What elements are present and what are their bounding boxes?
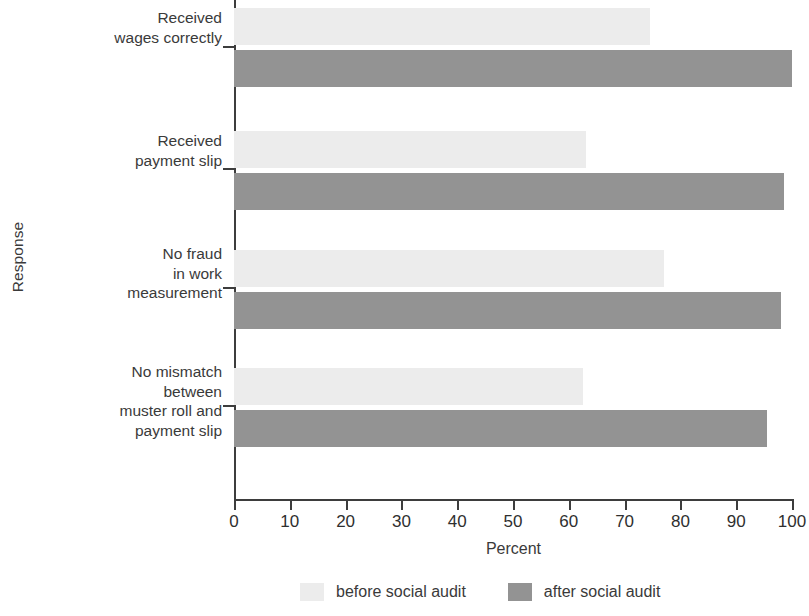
x-tick-5	[513, 499, 515, 510]
legend-item-0: before social audit	[300, 583, 466, 601]
y-tick-2	[223, 287, 234, 289]
legend-swatch-0	[300, 583, 324, 601]
y-tick-3	[223, 405, 234, 407]
x-tick-label-6: 60	[539, 512, 599, 532]
bar-after-2	[234, 292, 781, 329]
x-tick-label-3: 30	[371, 512, 431, 532]
bar-after-1	[234, 173, 784, 210]
bar-after-3	[234, 410, 767, 447]
legend-label-1: after social audit	[544, 583, 661, 601]
x-tick-label-2: 20	[316, 512, 376, 532]
y-tick-0	[223, 46, 234, 48]
bar-before-2	[234, 250, 664, 287]
x-tick-1	[290, 499, 292, 510]
x-tick-label-0: 0	[204, 512, 264, 532]
x-tick-3	[401, 499, 403, 510]
plot-area	[234, 0, 792, 497]
x-tick-6	[569, 499, 571, 510]
legend-item-1: after social audit	[508, 583, 661, 601]
y-tick-label-2: No fraud in work measurement	[127, 244, 222, 303]
y-tick-label-0: Received wages correctly	[114, 8, 222, 47]
x-tick-label-8: 80	[650, 512, 710, 532]
x-tick-label-9: 90	[706, 512, 766, 532]
bar-before-1	[234, 131, 586, 168]
legend-swatch-1	[508, 583, 532, 601]
x-tick-8	[680, 499, 682, 510]
x-tick-0	[234, 499, 236, 510]
bar-before-3	[234, 368, 583, 405]
x-tick-4	[457, 499, 459, 510]
legend-label-0: before social audit	[336, 583, 466, 601]
x-tick-7	[625, 499, 627, 510]
x-tick-label-10: 100	[762, 512, 809, 532]
x-axis-title: Percent	[234, 540, 793, 558]
x-tick-label-4: 40	[427, 512, 487, 532]
x-tick-label-5: 50	[483, 512, 543, 532]
x-tick-label-1: 10	[260, 512, 320, 532]
x-tick-label-7: 70	[595, 512, 655, 532]
bar-before-0	[234, 8, 650, 45]
x-tick-2	[346, 499, 348, 510]
bar-after-0	[234, 50, 792, 87]
chart-legend: before social auditafter social audit	[300, 583, 660, 601]
y-tick-label-3: No mismatch between muster roll and paym…	[119, 362, 222, 440]
x-tick-9	[736, 499, 738, 510]
y-axis-title: Response	[9, 197, 27, 317]
y-tick-label-1: Received payment slip	[135, 131, 222, 170]
bar-chart-figure: Response Percent before social auditafte…	[0, 0, 809, 616]
y-tick-1	[223, 168, 234, 170]
x-tick-10	[792, 499, 794, 510]
